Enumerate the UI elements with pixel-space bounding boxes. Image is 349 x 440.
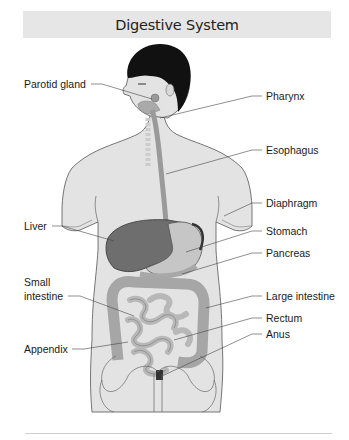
label-diaphragm: Diaphragm <box>266 197 317 209</box>
bottom-divider <box>25 433 332 434</box>
label-pharynx: Pharynx <box>266 90 305 102</box>
label-small-intestine-line1: Small <box>24 276 50 288</box>
label-appendix: Appendix <box>24 343 68 355</box>
digestive-system-illustration <box>0 0 349 440</box>
label-parotid-gland: Parotid gland <box>24 78 86 90</box>
label-liver: Liver <box>24 220 47 232</box>
label-esophagus: Esophagus <box>266 144 319 156</box>
label-stomach: Stomach <box>266 225 307 237</box>
label-small-intestine-line2: intestine <box>24 290 63 302</box>
label-anus: Anus <box>266 328 290 340</box>
label-large-intestine: Large intestine <box>266 290 335 302</box>
label-pancreas: Pancreas <box>266 247 310 259</box>
label-rectum: Rectum <box>266 312 302 324</box>
